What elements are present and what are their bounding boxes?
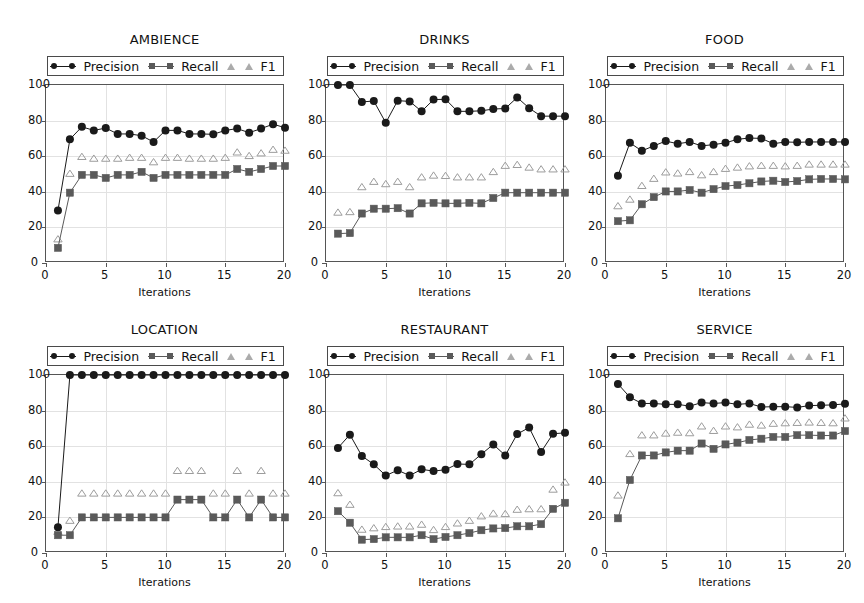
marker-square [406, 534, 413, 541]
marker-circle [245, 371, 253, 379]
marker-circle [406, 97, 414, 105]
legend-marker [447, 353, 453, 359]
marker-triangle [382, 523, 390, 529]
marker-circle [138, 132, 146, 140]
marker-circle [722, 139, 730, 147]
legend-marker [429, 353, 435, 359]
marker-triangle [501, 510, 509, 516]
marker-square [758, 435, 765, 442]
marker-square [818, 175, 825, 182]
marker-square [442, 200, 449, 207]
marker-triangle [757, 162, 765, 168]
marker-triangle [769, 162, 777, 168]
x-tick [785, 553, 786, 557]
marker-triangle [650, 175, 658, 181]
legend-symbol-square [706, 350, 736, 362]
x-tick [46, 553, 47, 557]
x-tick [785, 263, 786, 267]
marker-square [686, 186, 693, 193]
legend-label: F1 [820, 59, 835, 74]
marker-square [246, 514, 253, 521]
marker-circle [209, 130, 217, 138]
marker-triangle [394, 178, 402, 184]
marker-square [626, 476, 633, 483]
legend-marker [525, 353, 533, 360]
marker-triangle [829, 161, 837, 167]
marker-triangle [334, 489, 342, 495]
x-tick [845, 553, 846, 557]
series-f1 [334, 479, 569, 533]
marker-square [782, 433, 789, 440]
legend-marker [611, 63, 617, 69]
marker-triangle [549, 166, 557, 172]
marker-square [102, 174, 109, 181]
marker-triangle [197, 467, 205, 473]
legend-entry-recall: Recall [146, 349, 225, 364]
marker-triangle [685, 429, 693, 435]
legend-entry-recall: Recall [426, 59, 505, 74]
marker-circle [537, 448, 545, 456]
marker-triangle [537, 166, 545, 172]
legend-label: Precision [643, 59, 699, 74]
legend-marker [429, 63, 435, 69]
marker-circle [150, 371, 158, 379]
marker-triangle [78, 490, 86, 496]
marker-circle [197, 130, 205, 138]
series-line-recall [338, 193, 565, 234]
marker-square [466, 199, 473, 206]
marker-square [430, 199, 437, 206]
marker-square [806, 432, 813, 439]
marker-square [394, 534, 401, 541]
marker-square [358, 536, 365, 543]
x-tick-label: 10 [437, 558, 452, 572]
marker-triangle [90, 490, 98, 496]
legend-marker [227, 353, 235, 360]
series-f1 [54, 467, 289, 534]
marker-triangle [114, 490, 122, 496]
series-f1 [614, 161, 849, 209]
y-tick-label: 100 [308, 367, 318, 381]
y-tick-label: 80 [28, 113, 38, 127]
y-tick-label: 60 [28, 148, 38, 162]
legend-symbol-triangle-open [505, 60, 535, 72]
marker-circle [269, 371, 277, 379]
marker-circle [430, 467, 438, 475]
chart-panel-ambience: AMBIENCEPrecisionRecallF1051015200204060… [28, 32, 302, 312]
x-tick [285, 263, 286, 267]
x-tick-label: 20 [277, 558, 292, 572]
legend-marker [507, 63, 515, 70]
marker-triangle [233, 149, 241, 155]
x-tick [46, 263, 47, 267]
marker-square [406, 210, 413, 217]
x-axis-label: Iterations [605, 286, 844, 299]
x-axis-label: Iterations [325, 576, 564, 589]
legend-marker [245, 353, 253, 360]
series-f1 [334, 161, 569, 215]
marker-triangle [125, 154, 133, 160]
marker-triangle [537, 505, 545, 511]
y-tick-label: 80 [588, 403, 598, 417]
marker-square [614, 515, 621, 522]
marker-square [126, 171, 133, 178]
marker-triangle [841, 161, 849, 167]
marker-square [90, 514, 97, 521]
legend-label: Recall [461, 349, 498, 364]
marker-triangle [358, 183, 366, 189]
x-axis-label: Iterations [45, 286, 284, 299]
marker-circle [525, 104, 533, 112]
y-tick [322, 553, 326, 554]
legend-marker [611, 353, 617, 359]
marker-square [561, 189, 568, 196]
marker-square [806, 176, 813, 183]
marker-square [710, 445, 717, 452]
marker-square [150, 174, 157, 181]
marker-triangle [269, 146, 277, 152]
marker-circle [394, 466, 402, 474]
marker-triangle [417, 174, 425, 180]
legend-symbol-circle [328, 350, 358, 362]
legend-entry-f1: F1 [785, 349, 842, 364]
marker-square [418, 532, 425, 539]
marker-triangle [721, 165, 729, 171]
marker-square [394, 205, 401, 212]
series-precision [614, 134, 849, 180]
